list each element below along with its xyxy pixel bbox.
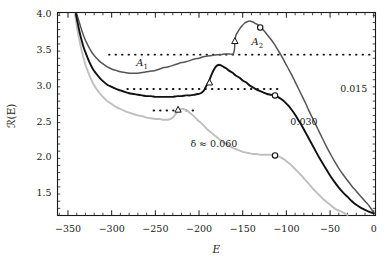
annotation-curve-0015: 0.015 bbox=[340, 83, 367, 94]
y-tick-label-3-0: 3.0 bbox=[37, 80, 52, 91]
figure-chart-R-of-E: 4.0 3.5 3.0 2.5 2.0 1.5 −350 −300 −250 −… bbox=[0, 0, 391, 259]
y-axis-title-wrap: ℛ(E) bbox=[2, 84, 18, 154]
data-curves bbox=[75, 14, 374, 215]
y-tick-label-2-0: 2.0 bbox=[37, 151, 52, 162]
x-tick-label-zero: 0 bbox=[371, 223, 377, 234]
annotation-curve-0030: 0.030 bbox=[290, 116, 317, 127]
x-tick-label-minus250: −250 bbox=[142, 223, 168, 234]
x-tick-label-minus350: −350 bbox=[55, 223, 81, 234]
x-tick-label-minus150: −150 bbox=[230, 223, 256, 234]
reference-dotted-lines bbox=[109, 55, 374, 111]
annotation-curve-delta: δ ≈ 0.060 bbox=[190, 138, 237, 149]
y-tick-label-3-5: 3.5 bbox=[37, 44, 52, 55]
x-axis-title: E bbox=[213, 243, 221, 255]
plot-canvas bbox=[0, 0, 391, 259]
annotation-a2-base: A bbox=[252, 36, 259, 47]
x-tick-label-minus300: −300 bbox=[99, 223, 125, 234]
y-axis-title: ℛ(E) bbox=[5, 81, 17, 151]
x-tick-label-minus50: −50 bbox=[320, 223, 340, 234]
y-tick-label-1-5: 1.5 bbox=[37, 187, 52, 198]
x-tick-label-minus200: −200 bbox=[186, 223, 212, 234]
annotation-region-a1: A1 bbox=[136, 57, 148, 71]
y-tick-label-4-0: 4.0 bbox=[37, 8, 52, 19]
axis-ticks bbox=[58, 13, 376, 216]
annotation-region-a2: A2 bbox=[252, 36, 264, 50]
y-tick-label-2-5: 2.5 bbox=[37, 116, 52, 127]
annotation-a2-sub: 2 bbox=[259, 42, 263, 50]
axes-frame bbox=[58, 13, 376, 216]
annotation-a1-sub: 1 bbox=[143, 63, 147, 71]
x-tick-label-minus100: −100 bbox=[273, 223, 299, 234]
